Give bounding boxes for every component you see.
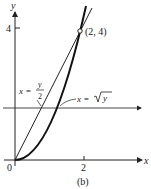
intersection-point (78, 29, 82, 33)
y-axis-label: y (10, 0, 16, 11)
region-diagram: y x 4 2 0 (2, 4) x = y 2 x = y (b) (0, 0, 151, 189)
y-tick-label: 4 (6, 23, 11, 34)
line-label-denominator: 2 (38, 92, 42, 101)
point-label: (2, 4) (85, 26, 107, 38)
origin-label: 0 (7, 162, 12, 173)
line-label-lhs: x = (18, 86, 31, 96)
parabola-label-leader (60, 99, 76, 106)
figure-caption: (b) (77, 176, 89, 188)
parabola-curve (15, 6, 86, 160)
x-tick-label: 2 (81, 162, 86, 173)
parabola-label-lhs: x = (76, 94, 89, 104)
parabola-label-radicand: y (102, 93, 107, 103)
line-label-numerator: y (37, 80, 42, 89)
x-axis-label: x (143, 155, 149, 166)
